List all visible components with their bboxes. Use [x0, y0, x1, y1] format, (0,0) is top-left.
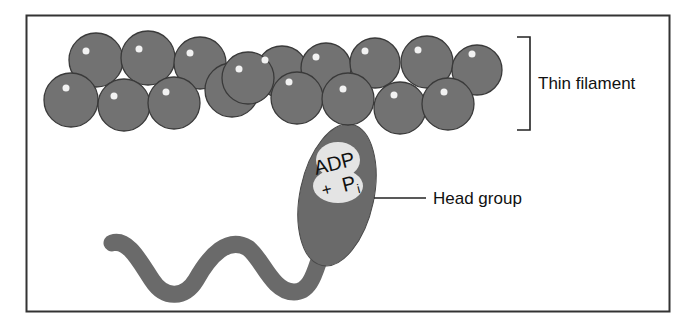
thin-filament-label: Thin filament — [538, 74, 636, 93]
head-group-label: Head group — [433, 189, 522, 208]
thin-filament — [44, 31, 502, 134]
thin-filament-bracket — [517, 37, 530, 130]
myosin-tail — [112, 240, 330, 294]
myosin-diagram: ADP + Pi Thin filament Head group — [0, 0, 694, 322]
